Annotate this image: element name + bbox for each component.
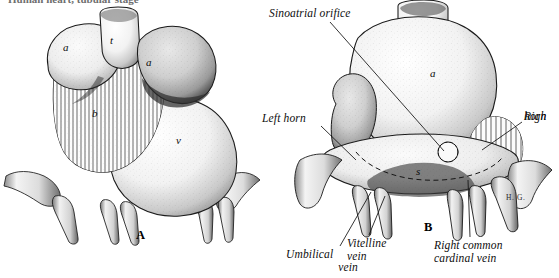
panel-a-letter: A	[136, 228, 145, 243]
panel-b-letter: B	[424, 220, 432, 235]
label-sinoatrial-orifice: Sinoatrial orifice	[269, 7, 351, 20]
figure-root: Human heart, tubular stage	[0, 0, 559, 278]
label-right-horn-line1: Righ	[524, 110, 546, 123]
panel-b-label-atrium: a	[430, 67, 436, 79]
label-vitelline-vein-line1: Vitelline	[347, 237, 386, 250]
artist-signature: H. G.	[506, 193, 525, 202]
panel-a-label-bulbus: b	[92, 107, 98, 119]
label-right-horn: Righ horn	[524, 110, 546, 123]
panel-a-label-atrium-right: a	[146, 56, 152, 68]
panel-a-label-truncus: t	[110, 34, 113, 46]
label-vitelline-vein: Vitelline vein	[347, 237, 386, 262]
panel-a-label-ventricle: v	[176, 134, 181, 146]
panel-b-drawing	[295, 0, 552, 246]
label-umbilical-vein-line2: vein	[286, 261, 358, 274]
panel-a-drawing	[4, 7, 260, 245]
label-right-common-cardinal-vein-line2: cardinal vein	[434, 252, 503, 265]
label-left-horn: Left horn	[262, 112, 306, 125]
label-right-common-cardinal-vein-line1: Right common	[434, 239, 503, 252]
anatomical-illustration	[0, 0, 559, 278]
panel-b-label-sinus-venosus: s	[416, 165, 420, 177]
label-vitelline-vein-line2: vein	[347, 250, 386, 263]
label-right-common-cardinal-vein: Right common cardinal vein	[434, 239, 503, 264]
panel-a-label-atrium-left: a	[63, 41, 69, 53]
